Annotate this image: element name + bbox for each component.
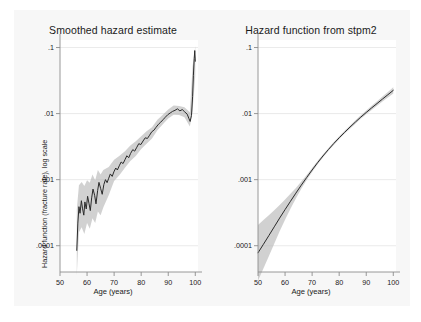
- x-axis-label-left: Age (years): [14, 287, 212, 296]
- plot-area-right: .1.01.001.00015060708090100: [212, 10, 410, 306]
- svg-text:.0001: .0001: [234, 241, 252, 250]
- svg-text:90: 90: [164, 278, 172, 287]
- figure-canvas: Smoothed hazard estimate .1.01.001.00015…: [0, 0, 421, 322]
- svg-text:50: 50: [254, 278, 262, 287]
- svg-text:.001: .001: [238, 175, 252, 184]
- svg-text:.1: .1: [48, 43, 54, 52]
- svg-text:90: 90: [362, 278, 370, 287]
- svg-text:100: 100: [189, 278, 201, 287]
- panel-smoothed-hazard-estimate: Smoothed hazard estimate .1.01.001.00015…: [14, 10, 212, 306]
- svg-text:80: 80: [137, 278, 145, 287]
- svg-text:.1: .1: [246, 43, 252, 52]
- svg-text:80: 80: [335, 278, 343, 287]
- panel-hazard-function-stpm2: Hazard function from stpm2 .1.01.001.000…: [212, 10, 410, 306]
- svg-text:70: 70: [308, 278, 316, 287]
- svg-text:100: 100: [387, 278, 399, 287]
- svg-text:.01: .01: [242, 109, 252, 118]
- x-axis-label-right: Age (years): [212, 287, 410, 296]
- svg-text:60: 60: [83, 278, 91, 287]
- svg-text:60: 60: [281, 278, 289, 287]
- svg-text:50: 50: [56, 278, 64, 287]
- y-axis-label-left: Hazard function (fracture rate), log sca…: [40, 140, 49, 268]
- svg-text:70: 70: [110, 278, 118, 287]
- svg-text:.01: .01: [44, 109, 54, 118]
